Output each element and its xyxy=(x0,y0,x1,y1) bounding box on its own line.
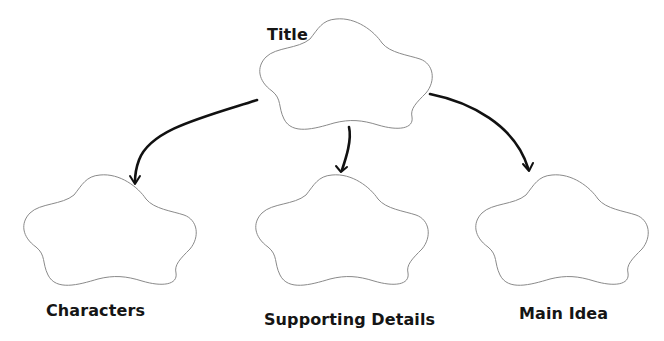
title-label: Title xyxy=(267,27,308,43)
arrow-to-characters xyxy=(130,100,257,184)
arrow-to-supporting-details xyxy=(336,127,350,172)
arrow-to-main-idea xyxy=(430,94,533,171)
supporting-details-label: Supporting Details xyxy=(264,312,435,328)
cloud-characters xyxy=(24,175,197,285)
diagram-canvas xyxy=(0,0,664,341)
main-idea-label: Main Idea xyxy=(519,306,608,322)
cloud-main-idea xyxy=(476,175,649,285)
cloud-supporting-details xyxy=(256,175,429,285)
characters-label: Characters xyxy=(46,303,145,319)
